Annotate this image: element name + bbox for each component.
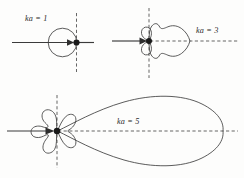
ka5-scatterer-dot (54, 128, 60, 134)
ka5-label: ka = 5 (117, 117, 140, 126)
ka1-scatterer-dot (73, 39, 79, 45)
ka1-label: ka = 1 (25, 14, 48, 23)
ka3-forward-lobe-lower (149, 41, 190, 58)
ka5-incident-arrow-icon (46, 127, 55, 134)
scattering-figure: ka = 1 ka = 3 (0, 0, 244, 178)
ka3-label: ka = 3 (196, 26, 219, 35)
figure-canvas: ka = 1 ka = 3 (0, 0, 244, 178)
panel-ka3: ka = 3 (112, 8, 238, 78)
ka3-scatterer-dot (146, 38, 152, 44)
panel-ka5: ka = 5 (7, 95, 238, 168)
panel-ka1: ka = 1 (12, 13, 94, 72)
ka1-incident-arrow-icon (67, 39, 74, 45)
ka3-forward-lobe-upper (149, 24, 190, 41)
